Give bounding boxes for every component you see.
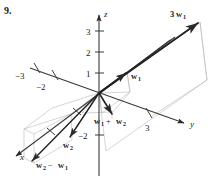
vector-label-diff-operator: −: [48, 160, 53, 170]
vector-label-w1-plus-w2: w 1 + w 2: [94, 116, 126, 127]
vector-label-3w1-coefficient: 3: [170, 9, 174, 19]
vector-label-3w1-subscript: 1: [183, 14, 186, 20]
vector-w2-minus-w1-arrow: [32, 93, 99, 161]
vector-label-w2-minus-w1: w 2 − w 1: [36, 160, 68, 171]
vector-label-diff-first-subscript: 2: [43, 165, 46, 171]
y-tick-3: [146, 108, 152, 118]
z-tick-label-1: 1: [86, 69, 91, 79]
vector-label-3w1: 3 w 1: [170, 9, 186, 20]
guide-drop-3w1: [200, 22, 207, 80]
vector-label-sum-first-base: w: [94, 116, 101, 126]
vector-label-diff-second-subscript: 1: [65, 165, 68, 171]
vector-label-w1: w 1: [131, 71, 141, 82]
vector-guide-long-diagonal: [99, 40, 170, 93]
exercise-number: 9.: [4, 6, 12, 16]
vector-label-w2-subscript: 2: [70, 145, 73, 151]
vector-label-w2: w 2: [63, 140, 73, 151]
guide-drop-w1: [127, 72, 130, 92]
z-tick-label-2: 2: [86, 48, 91, 58]
vector-label-w1-base: w: [131, 71, 138, 81]
vector-diagram-figure: 9.: [0, 0, 213, 176]
guide-parallelogram-3w1: [99, 22, 207, 151]
vector-label-diff-first-base: w: [36, 160, 43, 170]
vector-label-3w1-base: w: [176, 9, 183, 19]
vector-diagram-svg: x y z 3 2 1 −2 3 −3 −2 w 1 3 w 1 w 1 + w…: [0, 0, 213, 176]
ticks-group: [34, 31, 152, 135]
y-tick-neg2: [52, 70, 58, 80]
y-tick-label-3: 3: [145, 123, 150, 133]
vector-label-sum-first-subscript: 1: [101, 121, 104, 127]
vector-label-w1-subscript: 1: [138, 76, 141, 82]
vectors-group: [32, 23, 198, 161]
y-axis: [30, 68, 184, 123]
vector-label-sum-operator: +: [106, 116, 111, 126]
y-tick-label-neg2: −2: [36, 82, 46, 92]
guide-y-to-3w1-foot: [152, 80, 207, 116]
z-tick-label-3: 3: [86, 27, 91, 37]
y-tick-neg3: [34, 63, 40, 73]
z-tick-label-neg2: −2: [78, 131, 88, 141]
z-axis-label: z: [103, 9, 108, 19]
y-axis-label: y: [189, 119, 194, 129]
vector-label-sum-second-base: w: [116, 116, 123, 126]
y-tick-label-neg3: −3: [15, 71, 25, 81]
vector-label-diff-second-base: w: [58, 160, 65, 170]
vector-label-w2-base: w: [63, 140, 70, 150]
x-axis-label: x: [19, 152, 24, 162]
vector-label-sum-second-subscript: 2: [123, 121, 126, 127]
